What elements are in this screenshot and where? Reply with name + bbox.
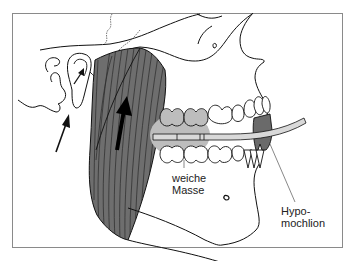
skull-top-curve [197, 14, 222, 18]
ear-canal [51, 73, 66, 104]
hypomochlion-label: Hypo- mochlion [281, 205, 325, 229]
hypomochlion-label-line2: mochlion [281, 217, 325, 229]
ear-outline [46, 58, 60, 72]
orbit-curve [198, 26, 212, 44]
suture-line [104, 14, 112, 44]
hypomochlion-label-line1: Hypo- [281, 205, 325, 217]
soft-mass-label-line1: weiche [172, 172, 206, 184]
skull-outline [40, 14, 200, 50]
mastoid-line [18, 100, 60, 112]
condyle [67, 53, 91, 108]
leader-line-hypomochlion [270, 144, 295, 202]
soft-mass-label: weiche Masse [172, 172, 206, 196]
soft-mass-label-line2: Masse [172, 184, 206, 196]
foramen [213, 43, 216, 48]
mental-foramen [224, 195, 229, 200]
lower-teeth [160, 146, 264, 168]
condyle-arrow-icon [56, 114, 70, 152]
